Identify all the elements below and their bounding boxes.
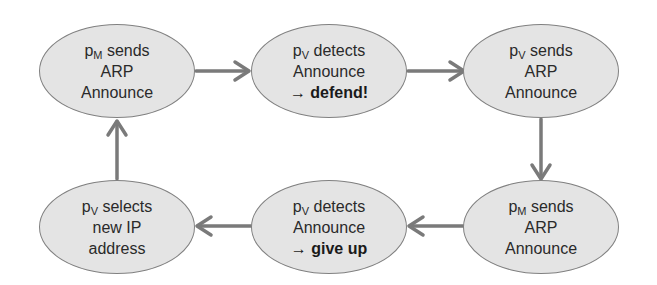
node-action-text: defend! [310, 84, 368, 101]
node-line: ARP [101, 61, 134, 82]
node-line: ARP [525, 217, 558, 238]
edge-n1-n2 [196, 62, 249, 80]
node-line: Announce [293, 217, 365, 238]
node-line: pM sends [508, 196, 573, 217]
node-line: Announce [81, 82, 153, 103]
node-text: sends [526, 198, 573, 215]
node-line: address [89, 238, 146, 259]
edge-n4-n5 [409, 217, 465, 235]
node-pv-detects-announce-give-up: pV detects Announce → give up [251, 180, 407, 274]
right-arrow-icon: → [290, 84, 306, 101]
node-line: → give up [291, 238, 367, 259]
node-pv-detects-announce-defend: pV detects Announce → defend! [251, 24, 407, 118]
node-text: sends [102, 42, 149, 59]
node-line: new IP [93, 217, 142, 238]
node-subscript: V [302, 205, 309, 217]
node-line: pV detects [293, 40, 365, 61]
node-text: p [293, 198, 302, 215]
node-pm-sends-arp-announce-2: pM sends ARP Announce [463, 180, 619, 274]
node-text: p [508, 198, 517, 215]
node-subscript: V [518, 49, 525, 61]
edge-n5-n6 [197, 217, 251, 235]
node-subscript: V [302, 49, 309, 61]
right-arrow-icon: → [291, 240, 307, 257]
node-line: → defend! [290, 82, 368, 103]
node-line: Announce [505, 82, 577, 103]
node-pv-selects-new-ip: pV selects new IP address [39, 180, 195, 274]
node-text: p [84, 42, 93, 59]
edge-n2-n3 [408, 62, 464, 80]
node-text: p [293, 42, 302, 59]
node-line: pV detects [293, 196, 365, 217]
node-text: selects [98, 198, 152, 215]
node-line: Announce [505, 238, 577, 259]
node-text: p [82, 198, 91, 215]
edge-n3-n4 [532, 119, 550, 179]
node-text: detects [309, 198, 365, 215]
node-subscript: V [91, 205, 98, 217]
node-pv-sends-arp-announce: pV sends ARP Announce [463, 24, 619, 118]
node-line: pV selects [82, 196, 153, 217]
node-line: pM sends [84, 40, 149, 61]
node-text: detects [309, 42, 365, 59]
node-pm-sends-arp-announce: pM sends ARP Announce [39, 24, 195, 118]
node-line: ARP [525, 61, 558, 82]
edge-n6-n1 [108, 121, 126, 179]
node-line: Announce [293, 61, 365, 82]
node-text: p [509, 42, 518, 59]
node-line: pV sends [509, 40, 572, 61]
node-action-text: give up [311, 240, 367, 257]
node-text: sends [526, 42, 573, 59]
